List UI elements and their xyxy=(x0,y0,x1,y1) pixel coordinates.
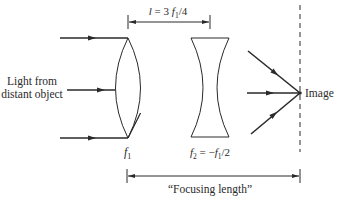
arrow-right-icon xyxy=(97,88,105,93)
converging-lens-right-edge xyxy=(128,38,141,138)
incoming-ray-middle xyxy=(67,88,115,93)
arrow-right-icon xyxy=(88,36,96,41)
incoming-rays xyxy=(60,36,128,141)
incoming-ray-bottom xyxy=(60,136,128,141)
separation-label: l = 3 f1/4 xyxy=(149,5,188,20)
output-ray-bottom xyxy=(251,93,300,134)
focusing-length-dimension: “Focusing length” xyxy=(127,169,300,196)
output-rays xyxy=(247,51,302,134)
source-label-line1: Light from xyxy=(7,75,57,88)
source-label-line2: distant object xyxy=(1,88,63,101)
lens2-label: f2 = −f1/2 xyxy=(190,146,230,161)
arrow-right-icon xyxy=(88,136,96,141)
output-ray-middle xyxy=(247,91,300,96)
diverging-lens xyxy=(191,38,229,137)
separation-dimension: l = 3 f1/4 xyxy=(128,5,210,29)
image-point xyxy=(298,91,302,95)
image-label: Image xyxy=(305,87,334,100)
converging-lens xyxy=(116,38,141,138)
incoming-ray-top xyxy=(60,36,128,41)
output-ray-top xyxy=(248,51,300,93)
optics-diagram: Light from distant object f1 f2 = −f1/2 … xyxy=(0,0,340,197)
arrow-right-icon xyxy=(266,91,274,96)
focusing-length-label: “Focusing length” xyxy=(168,183,252,196)
lens1-label: f1 xyxy=(124,145,131,161)
